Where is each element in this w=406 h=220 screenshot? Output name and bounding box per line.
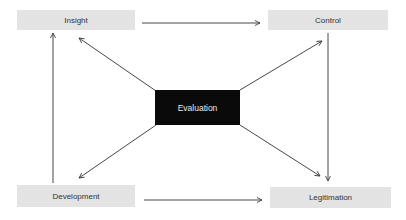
edge-evaluation-to-control <box>240 41 322 90</box>
edge-evaluation-to-development <box>79 125 156 178</box>
node-evaluation-label: Evaluation <box>178 103 218 113</box>
edge-evaluation-to-insight <box>79 38 156 91</box>
node-insight-label: Insight <box>64 16 88 25</box>
node-control-label: Control <box>315 16 341 25</box>
node-legitimation-label: Legitimation <box>309 193 352 202</box>
node-control: Control <box>268 10 388 30</box>
node-legitimation: Legitimation <box>270 187 391 208</box>
node-development: Development <box>17 185 135 207</box>
node-insight: Insight <box>17 10 135 30</box>
edge-evaluation-to-legitimation <box>240 125 320 176</box>
node-evaluation: Evaluation <box>155 90 240 125</box>
node-development-label: Development <box>52 192 99 201</box>
